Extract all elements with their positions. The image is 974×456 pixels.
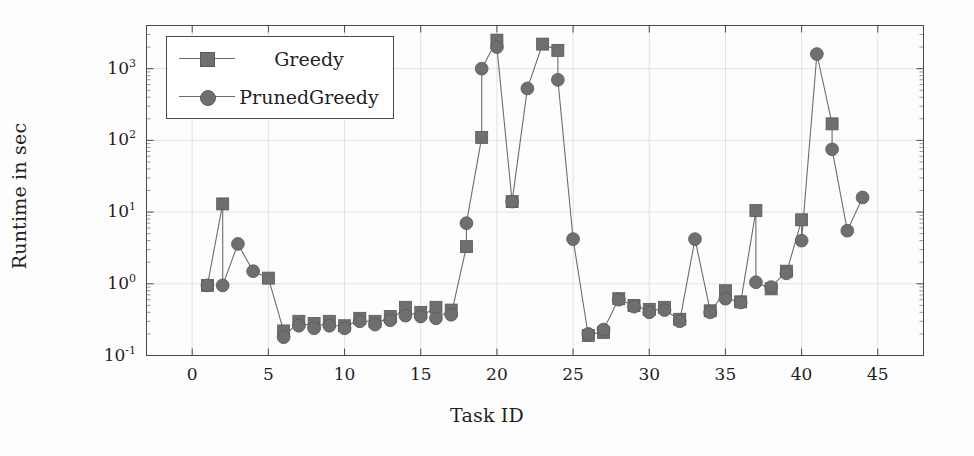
data-point-circle: [475, 62, 488, 75]
data-point-circle: [704, 306, 717, 319]
data-point-circle: [323, 319, 336, 332]
data-point-circle: [780, 267, 793, 280]
data-point-circle: [277, 331, 290, 344]
y-axis-title: Runtime in sec: [8, 123, 30, 270]
data-point-circle: [673, 315, 686, 328]
data-point-circle: [384, 314, 397, 327]
data-point-circle: [460, 217, 473, 230]
data-point-circle: [658, 304, 671, 317]
y-tick-label: 100: [60, 272, 136, 293]
x-tick-label: 5: [238, 364, 298, 384]
data-point-circle: [201, 279, 214, 292]
data-point-circle: [856, 191, 869, 204]
legend-sample-square: [179, 49, 235, 69]
data-point-square: [262, 272, 274, 284]
y-tick-label: 101: [60, 200, 136, 221]
data-point-circle: [292, 319, 305, 332]
circle-marker-icon: [200, 90, 216, 106]
data-point-circle: [643, 306, 656, 319]
data-point-circle: [810, 48, 823, 61]
x-axis-title: Task ID: [0, 404, 974, 426]
x-tick-label: 25: [543, 364, 603, 384]
y-tick-label: 102: [60, 128, 136, 149]
x-tick-label: 20: [467, 364, 527, 384]
data-point-square: [476, 131, 488, 143]
data-point-circle: [765, 281, 778, 294]
legend-entry-greedy: Greedy: [167, 41, 393, 77]
x-tick-label: 10: [315, 364, 375, 384]
plot-canvas: [0, 0, 974, 456]
x-tick-label: 40: [772, 364, 832, 384]
data-point-circle: [719, 292, 732, 305]
data-point-circle: [597, 323, 610, 336]
data-point-circle: [521, 82, 534, 95]
data-point-circle: [826, 143, 839, 156]
data-point-circle: [689, 233, 702, 246]
x-tick-label: 45: [848, 364, 908, 384]
chart-figure: Runtime in sec Task ID 10-1100101102103 …: [0, 0, 974, 456]
data-point-square: [796, 214, 808, 226]
data-point-circle: [491, 41, 504, 54]
chart-legend: Greedy PrunedGreedy: [166, 36, 394, 119]
data-point-square: [217, 198, 229, 210]
data-point-circle: [430, 312, 443, 325]
legend-entry-prunedgreedy: PrunedGreedy: [167, 79, 393, 115]
data-point-circle: [750, 276, 763, 289]
data-point-circle: [338, 322, 351, 335]
legend-label-prunedgreedy: PrunedGreedy: [235, 86, 393, 108]
data-point-circle: [551, 73, 564, 86]
data-point-circle: [247, 265, 260, 278]
data-point-circle: [734, 296, 747, 309]
data-point-circle: [414, 310, 427, 323]
data-point-square: [460, 241, 472, 253]
data-point-square: [552, 44, 564, 56]
data-point-circle: [308, 322, 321, 335]
data-point-square: [750, 205, 762, 217]
data-point-circle: [567, 233, 580, 246]
legend-sample-circle: [179, 87, 235, 107]
y-tick-label: 103: [60, 57, 136, 78]
data-point-circle: [216, 279, 229, 292]
legend-label-greedy: Greedy: [235, 48, 393, 70]
data-point-circle: [232, 238, 245, 251]
data-point-circle: [628, 300, 641, 313]
data-point-circle: [506, 195, 519, 208]
data-point-circle: [369, 318, 382, 331]
x-tick-label: 15: [391, 364, 451, 384]
x-tick-label: 0: [162, 364, 222, 384]
data-point-circle: [445, 308, 458, 321]
x-tick-label: 30: [619, 364, 679, 384]
data-point-circle: [795, 234, 808, 247]
y-tick-label: 10-1: [60, 344, 136, 365]
data-point-square: [537, 38, 549, 50]
data-point-circle: [582, 328, 595, 341]
data-point-circle: [353, 315, 366, 328]
data-point-circle: [841, 224, 854, 237]
data-point-circle: [612, 293, 625, 306]
data-point-square: [826, 118, 838, 130]
square-marker-icon: [200, 52, 215, 67]
data-point-circle: [399, 309, 412, 322]
x-tick-label: 35: [695, 364, 755, 384]
data-point-square: [430, 301, 442, 313]
